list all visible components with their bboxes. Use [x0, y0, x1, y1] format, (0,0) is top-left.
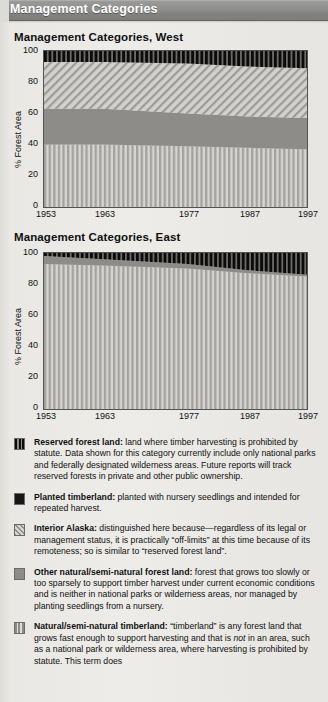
- band-natural-semi-natural-timberland: [44, 264, 307, 409]
- stacked-area-east: [44, 253, 307, 409]
- y-tick-west-1: 80: [16, 76, 38, 86]
- band-natural-semi-natural-timberland: [44, 145, 307, 207]
- y-tick-west-2: 60: [16, 107, 38, 117]
- legend-item-term-3: Other natural/semi-natural forest land:: [34, 567, 192, 577]
- legend-item-0: Reserved forest land: land where timber …: [14, 437, 316, 483]
- x-tick-west-0: 1953: [36, 209, 56, 219]
- page-title: Management Categories: [10, 2, 158, 16]
- y-tick-east-5: 0: [16, 402, 38, 412]
- legend-item-term-2: Interior Alaska:: [34, 523, 97, 533]
- y-tick-west-5: 0: [16, 200, 38, 210]
- x-tick-west-2: 1977: [179, 209, 199, 219]
- legend-item-text-3: Other natural/semi-natural forest land: …: [34, 567, 316, 613]
- chart-legend: Reserved forest land: land where timber …: [14, 437, 316, 676]
- x-tick-west-3: 1987: [240, 209, 260, 219]
- legend-item-text-2: Interior Alaska: distinguished here beca…: [34, 523, 316, 557]
- natural-semi-natural-timberland-swatch: [14, 622, 25, 634]
- chart-plot-area-east: [43, 252, 308, 410]
- chart-title-east: Management Categories, East: [14, 231, 180, 243]
- legend-item-term-4: Natural/semi-natural timberland:: [34, 621, 168, 631]
- chart-title-west: Management Categories, West: [14, 31, 183, 43]
- legend-item-1: Planted timberland: planted with nursery…: [14, 492, 316, 515]
- y-tick-west-4: 20: [16, 169, 38, 179]
- y-tick-east-0: 100: [16, 247, 38, 257]
- page-background: Management Categories Management Categor…: [0, 0, 328, 702]
- legend-item-3: Other natural/semi-natural forest land: …: [14, 567, 316, 613]
- x-tick-west-1: 1963: [95, 209, 115, 219]
- header-drop-shadow: [9, 20, 328, 23]
- y-tick-east-2: 60: [16, 309, 38, 319]
- legend-item-4: Natural/semi-natural timberland: “timber…: [14, 621, 316, 667]
- reserved-forest-land-swatch: [14, 438, 25, 450]
- legend-item-term-1: Planted timberland:: [34, 492, 115, 502]
- other-natural-forest-land-swatch: [14, 568, 25, 580]
- legend-item-term-0: Reserved forest land:: [34, 437, 123, 447]
- y-tick-east-1: 80: [16, 278, 38, 288]
- header-left-margin: [0, 0, 9, 22]
- stacked-area-west: [44, 51, 307, 207]
- chart-plot-area-west: [43, 50, 308, 208]
- section-header: Management Categories: [0, 0, 328, 22]
- y-tick-west-0: 100: [16, 45, 38, 55]
- x-tick-east-1: 1963: [95, 411, 115, 421]
- legend-item-text-1: Planted timberland: planted with nursery…: [34, 492, 316, 515]
- x-tick-east-4: 1997: [298, 411, 318, 421]
- interior-alaska-swatch: [14, 524, 25, 536]
- y-tick-east-4: 20: [16, 371, 38, 381]
- planted-timberland-swatch: [14, 493, 25, 505]
- legend-item-text-4: Natural/semi-natural timberland: “timber…: [34, 621, 316, 667]
- legend-item-emphasis-4: not: [233, 633, 245, 643]
- x-tick-east-0: 1953: [36, 411, 56, 421]
- x-tick-west-4: 1997: [298, 209, 318, 219]
- legend-item-2: Interior Alaska: distinguished here beca…: [14, 523, 316, 557]
- y-tick-east-3: 40: [16, 340, 38, 350]
- legend-item-text-0: Reserved forest land: land where timber …: [34, 437, 316, 483]
- x-tick-east-3: 1987: [240, 411, 260, 421]
- y-tick-west-3: 40: [16, 138, 38, 148]
- x-tick-east-2: 1977: [179, 411, 199, 421]
